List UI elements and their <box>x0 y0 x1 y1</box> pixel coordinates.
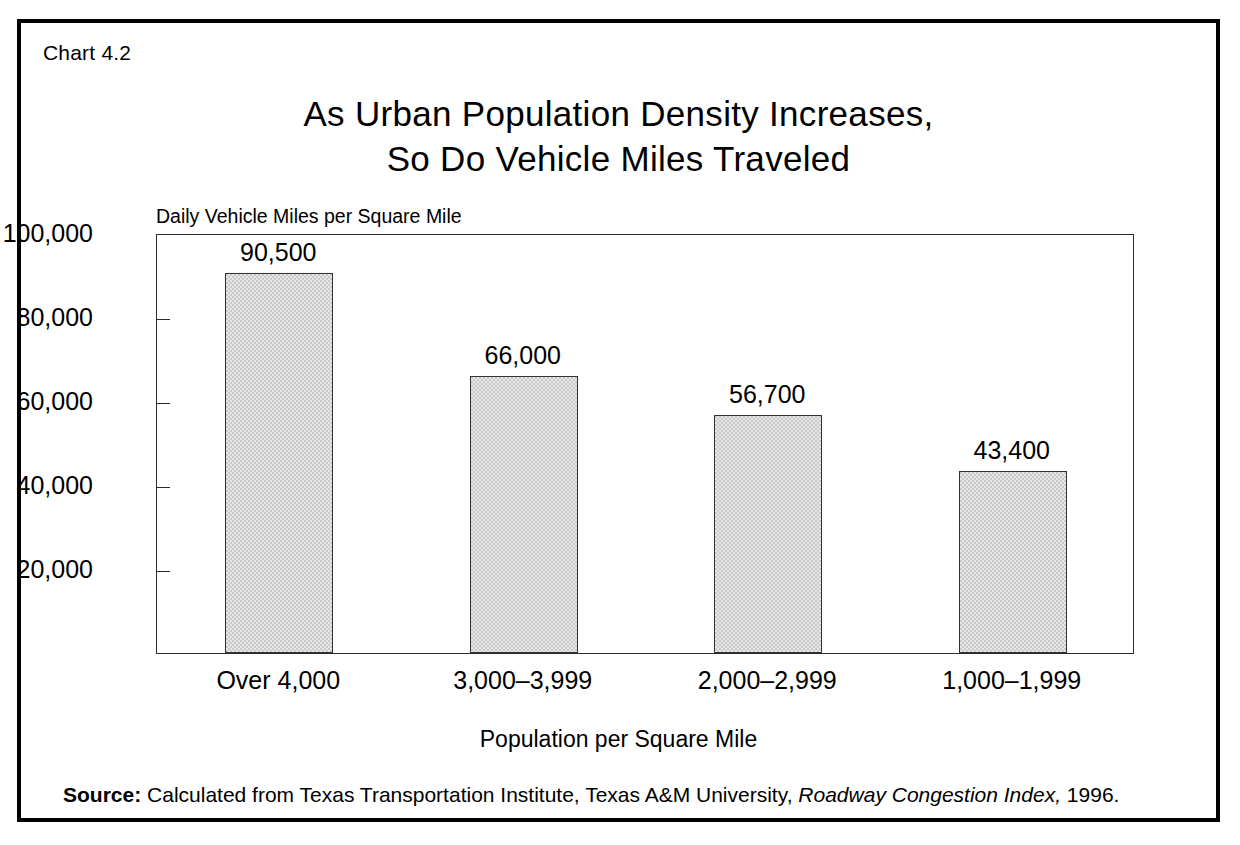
y-tick-label: 20,000 <box>17 557 93 582</box>
y-tick-label: 60,000 <box>17 389 93 414</box>
y-tick-label: 80,000 <box>17 305 93 330</box>
source-label: Source: <box>63 783 141 806</box>
x-tick-label: 1,000–1,999 <box>872 668 1152 693</box>
bar <box>225 273 333 653</box>
y-tick-mark <box>157 319 170 320</box>
bar <box>470 376 578 653</box>
chart-figure: Chart 4.2 As Urban Population Density In… <box>17 19 1220 822</box>
bar-value-label: 43,400 <box>892 438 1132 463</box>
y-tick-mark <box>157 487 170 488</box>
source-text-before: Calculated from Texas Transportation Ins… <box>147 783 792 806</box>
source-publication-title: Roadway Congestion Index, <box>798 783 1061 806</box>
bar-value-label: 56,700 <box>647 382 887 407</box>
bar-value-label: 90,500 <box>158 240 398 265</box>
x-axis-title: Population per Square Mile <box>21 726 1216 753</box>
y-tick-label: 100,000 <box>3 221 93 246</box>
chart-title: As Urban Population Density Increases, S… <box>21 91 1216 181</box>
y-tick-mark <box>157 571 170 572</box>
bar <box>959 471 1067 653</box>
chart-number-label: Chart 4.2 <box>43 41 131 65</box>
x-tick-label: Over 4,000 <box>138 668 418 693</box>
x-tick-label: 2,000–2,999 <box>627 668 907 693</box>
y-tick-label: 40,000 <box>17 473 93 498</box>
source-year: 1996. <box>1067 783 1120 806</box>
chart-title-line-2: So Do Vehicle Miles Traveled <box>21 136 1216 181</box>
x-tick-label: 3,000–3,999 <box>383 668 663 693</box>
y-axis-title: Daily Vehicle Miles per Square Mile <box>156 205 462 228</box>
bar-value-label: 66,000 <box>403 343 643 368</box>
y-tick-mark <box>157 403 170 404</box>
bar <box>714 415 822 653</box>
chart-title-line-1: As Urban Population Density Increases, <box>21 91 1216 136</box>
source-note: Source: Calculated from Texas Transporta… <box>63 783 1119 807</box>
